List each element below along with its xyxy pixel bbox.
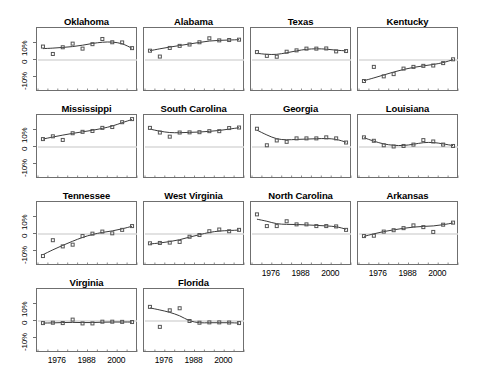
data-point [41,45,44,48]
data-point [442,143,445,146]
data-point [91,43,94,46]
data-point [168,309,171,312]
x-tick-label: 1988 [285,268,317,278]
smooth-trend-line [364,138,453,146]
data-point [148,126,151,129]
panel-title: Georgia [250,103,351,114]
data-point [208,230,211,233]
y-tick-mark [33,76,36,77]
data-point [218,228,221,231]
plot-area [250,27,351,91]
data-point [158,55,161,58]
smooth-trend-line [150,230,239,244]
data-point [101,37,104,40]
data-point [111,126,114,129]
data-point [362,136,365,139]
panel-title: Virginia [36,277,137,288]
plot-area [36,114,137,178]
y-tick-label: 10% [20,214,29,229]
data-point [345,228,348,231]
data-point [315,225,318,228]
plot-area [357,114,458,178]
y-tick-label: 0 [20,60,29,64]
plot-area [143,288,244,352]
plot-graphics [37,115,138,179]
data-point [402,144,405,147]
y-tick-label: 10% [20,127,29,142]
data-point [422,139,425,142]
data-point [285,220,288,223]
x-axis: 197619882000 [36,355,137,367]
plot-area [250,114,351,178]
y-tick-label: -10% [20,72,29,90]
panel-north-carolina: North Carolina [250,190,351,265]
panel-louisiana: Louisiana [357,103,458,178]
x-tick-label: 1988 [392,268,424,278]
x-tick-label: 1976 [41,355,73,365]
data-point [178,240,181,243]
x-tick-label: 2000 [421,268,453,278]
data-point [238,322,241,325]
y-axis: 10%0-10% [16,288,36,352]
data-point [168,46,171,49]
smooth-trend-line [43,226,132,254]
data-point [452,221,455,224]
data-point [81,47,84,50]
data-point [305,47,308,50]
smooth-trend-line [257,49,346,55]
y-tick-mark [33,303,36,304]
data-point [91,322,94,325]
smooth-trend-line [364,60,453,81]
panel-oklahoma: Oklahoma [36,16,137,91]
data-point [148,305,151,308]
data-point [325,136,328,139]
data-point [432,140,435,143]
panel-georgia: Georgia [250,103,351,178]
data-point [238,126,241,129]
data-point [158,325,161,328]
data-point [51,135,54,138]
x-tick-label: 1988 [71,355,103,365]
data-point [335,50,338,53]
x-tick-label: 1976 [148,355,180,365]
y-tick-mark [33,320,36,321]
plot-graphics [358,202,459,266]
smooth-trend-line [257,130,346,142]
data-point [285,50,288,53]
y-axis: 10%0-10% [16,201,36,265]
data-point [392,73,395,76]
data-point [285,140,288,143]
plot-graphics [144,289,245,353]
smooth-trend-line [43,42,132,49]
data-point [362,80,365,83]
y-tick-mark [33,337,36,338]
data-point [148,242,151,245]
data-point [325,47,328,50]
data-point [101,126,104,129]
data-point [335,137,338,140]
y-tick-mark [33,42,36,43]
panel-title: Kentucky [357,16,458,27]
data-point [168,135,171,138]
smooth-trend-line [150,40,239,51]
y-tick-label: 10% [20,301,29,316]
plot-graphics [144,28,245,92]
smooth-trend-line [43,322,132,323]
y-tick-mark [33,146,36,147]
x-tick-label: 1988 [178,355,210,365]
data-point [131,118,134,121]
data-point [238,228,241,231]
panel-title: Texas [250,16,351,27]
data-point [81,322,84,325]
x-tick-label: 2000 [100,355,132,365]
plot-graphics [251,202,352,266]
plot-area [36,27,137,91]
data-point [148,49,151,52]
data-point [71,243,74,246]
data-point [228,127,231,130]
data-point [61,138,64,141]
y-tick-label: -10% [20,159,29,177]
y-axis: 10%0-10% [16,27,36,91]
x-axis: 197619882000 [357,268,458,280]
data-point [345,50,348,53]
